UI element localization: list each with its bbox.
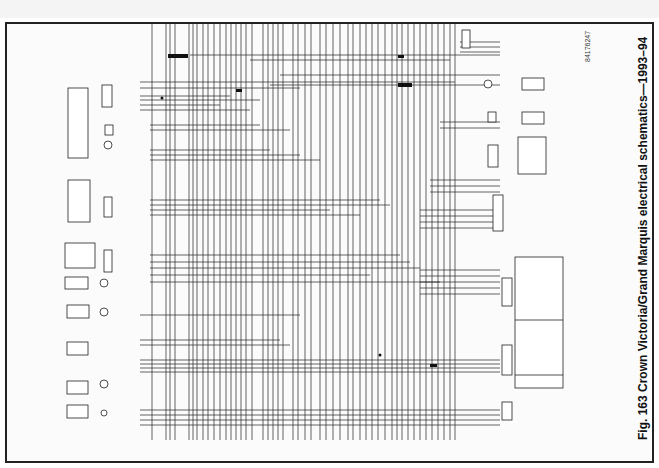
left-components	[65, 85, 113, 418]
figure-caption: Fig. 163 Crown Victoria/Grand Marquis el…	[636, 37, 650, 440]
figure-code: 84176247	[584, 31, 591, 62]
right-components	[462, 30, 563, 420]
splice-points	[161, 54, 438, 367]
wiring-schematic	[0, 0, 659, 468]
